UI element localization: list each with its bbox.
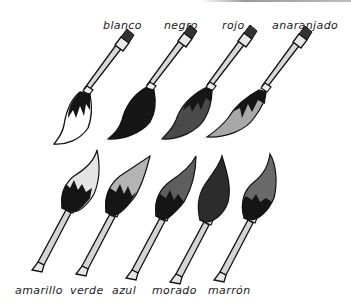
label-verde: verde	[70, 285, 104, 297]
label-marron: marrón	[208, 285, 251, 297]
label-amarillo: amarillo	[15, 285, 63, 297]
label-anaranjado: anaranjado	[272, 20, 338, 32]
label-rojo: rojo	[222, 20, 245, 32]
label-morado: morado	[152, 285, 197, 297]
label-negro: negro	[164, 20, 198, 32]
brushes-illustration	[0, 0, 351, 305]
label-azul: azul	[112, 285, 136, 297]
label-blanco: blanco	[103, 20, 142, 32]
brush-anaranjado	[207, 26, 312, 137]
